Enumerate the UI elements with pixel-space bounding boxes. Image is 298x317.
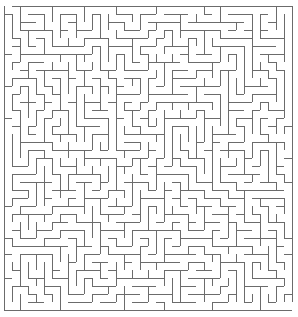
maze-board	[0, 0, 298, 317]
maze-walls	[4, 6, 292, 310]
